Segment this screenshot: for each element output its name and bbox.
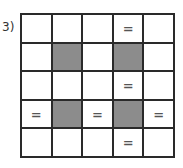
shaded-cell[interactable] — [53, 44, 82, 71]
puzzle-number: 3) — [2, 20, 14, 34]
empty-cell[interactable] — [83, 129, 112, 156]
empty-cell[interactable] — [22, 72, 51, 99]
empty-cell[interactable] — [83, 72, 112, 99]
empty-cell[interactable] — [53, 15, 82, 42]
empty-cell[interactable] — [144, 129, 173, 156]
empty-cell[interactable] — [53, 72, 82, 99]
equals-cell[interactable]: = — [114, 15, 143, 42]
empty-cell[interactable] — [22, 44, 51, 71]
equals-cell[interactable]: = — [144, 101, 173, 128]
empty-cell[interactable] — [144, 15, 173, 42]
empty-cell[interactable] — [144, 44, 173, 71]
empty-cell[interactable] — [53, 129, 82, 156]
empty-cell[interactable] — [22, 129, 51, 156]
equals-cell[interactable]: = — [114, 129, 143, 156]
shaded-cell[interactable] — [114, 44, 143, 71]
equals-cell[interactable]: = — [114, 72, 143, 99]
empty-cell[interactable] — [22, 15, 51, 42]
equals-cell[interactable]: = — [83, 101, 112, 128]
equals-cell[interactable]: = — [22, 101, 51, 128]
shaded-cell[interactable] — [114, 101, 143, 128]
puzzle-grid: ====== — [20, 13, 175, 158]
shaded-cell[interactable] — [53, 101, 82, 128]
empty-cell[interactable] — [83, 15, 112, 42]
empty-cell[interactable] — [83, 44, 112, 71]
empty-cell[interactable] — [144, 72, 173, 99]
